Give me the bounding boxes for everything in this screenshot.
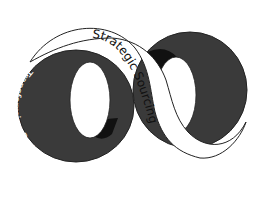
strategic-sourcing-diagram: Transforming Partnerships Expanding Capa… [0, 0, 266, 210]
